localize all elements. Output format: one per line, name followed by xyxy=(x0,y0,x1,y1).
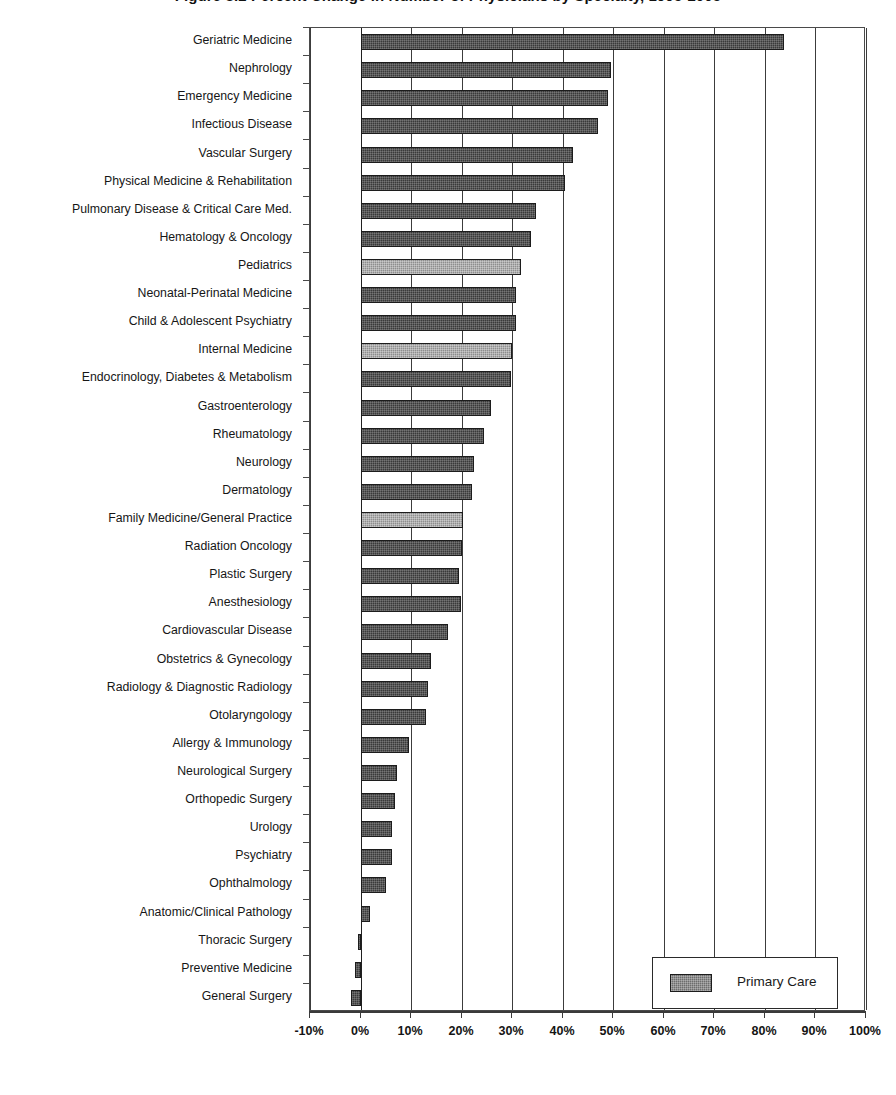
bar xyxy=(361,877,386,893)
bar xyxy=(361,118,599,134)
category-label: Otolaryngology xyxy=(0,709,292,722)
bar xyxy=(361,793,395,809)
category-label: Radiation Oncology xyxy=(0,540,292,553)
y-axis-tick xyxy=(303,786,310,787)
bar xyxy=(361,400,491,416)
y-axis-tick xyxy=(303,252,310,253)
category-label: Orthopedic Surgery xyxy=(0,793,292,806)
bar xyxy=(361,709,427,725)
category-label: Anatomic/Clinical Pathology xyxy=(0,906,292,919)
category-label: Rheumatology xyxy=(0,428,292,441)
category-label: Anesthesiology xyxy=(0,596,292,609)
bar xyxy=(361,484,472,500)
gridline xyxy=(866,28,867,1010)
bar xyxy=(361,231,532,247)
y-axis-tick xyxy=(303,392,310,393)
y-axis-tick xyxy=(303,814,310,815)
bar xyxy=(361,203,537,219)
bar xyxy=(361,315,517,331)
category-label: Pulmonary Disease & Critical Care Med. xyxy=(0,203,292,216)
category-label: Allergy & Immunology xyxy=(0,737,292,750)
y-axis-tick xyxy=(303,758,310,759)
category-label: Preventive Medicine xyxy=(0,962,292,975)
bar xyxy=(361,512,464,528)
category-label: Infectious Disease xyxy=(0,118,292,131)
y-axis-tick xyxy=(303,955,310,956)
x-axis-tick xyxy=(663,1011,664,1018)
y-axis-tick xyxy=(303,196,310,197)
category-label: Ophthalmology xyxy=(0,877,292,890)
y-axis-tick xyxy=(303,27,310,28)
plot-area xyxy=(309,27,865,1011)
bar xyxy=(361,34,785,50)
bar xyxy=(361,653,432,669)
bar xyxy=(361,343,513,359)
y-axis-tick xyxy=(303,505,310,506)
bar xyxy=(361,681,428,697)
bar xyxy=(361,456,475,472)
legend-label-primary-care: Primary Care xyxy=(737,974,817,989)
x-axis-tick xyxy=(865,1011,866,1018)
y-axis-tick xyxy=(303,674,310,675)
category-label: Internal Medicine xyxy=(0,343,292,356)
y-axis-tick xyxy=(303,421,310,422)
bar xyxy=(361,568,460,584)
category-label: Endocrinology, Diabetes & Metabolism xyxy=(0,371,292,384)
bar xyxy=(361,849,393,865)
y-axis-tick xyxy=(303,364,310,365)
bar xyxy=(361,62,611,78)
bar xyxy=(361,175,566,191)
category-label: Pediatrics xyxy=(0,259,292,272)
category-label: Neonatal-Perinatal Medicine xyxy=(0,287,292,300)
category-label: Nephrology xyxy=(0,62,292,75)
y-axis-tick xyxy=(303,842,310,843)
y-axis-tick xyxy=(303,927,310,928)
bar xyxy=(361,287,517,303)
category-label: Gastroenterology xyxy=(0,400,292,413)
gridline xyxy=(664,28,665,1010)
category-label: Hematology & Oncology xyxy=(0,231,292,244)
y-axis-tick xyxy=(303,280,310,281)
y-axis-tick xyxy=(303,730,310,731)
y-axis-tick xyxy=(303,449,310,450)
bar xyxy=(361,624,448,640)
x-axis-tick-label: 100% xyxy=(830,1024,896,1038)
y-axis-tick xyxy=(303,111,310,112)
chart-title: Figure 3.2 Percent Change in Number of P… xyxy=(0,0,896,5)
bar xyxy=(361,765,398,781)
bar xyxy=(355,962,360,978)
category-label: Cardiovascular Disease xyxy=(0,624,292,637)
x-axis-tick xyxy=(562,1011,563,1018)
x-axis-tick xyxy=(360,1011,361,1018)
category-label: Psychiatry xyxy=(0,849,292,862)
bar xyxy=(351,990,360,1006)
category-label: Radiology & Diagnostic Radiology xyxy=(0,681,292,694)
y-axis-tick xyxy=(303,617,310,618)
y-axis-tick xyxy=(303,55,310,56)
category-label: Dermatology xyxy=(0,484,292,497)
x-axis-tick xyxy=(410,1011,411,1018)
category-label: Child & Adolescent Psychiatry xyxy=(0,315,292,328)
y-axis-tick xyxy=(303,983,310,984)
category-label: Family Medicine/General Practice xyxy=(0,512,292,525)
y-axis-tick xyxy=(303,168,310,169)
bar xyxy=(361,737,409,753)
y-axis-tick xyxy=(303,139,310,140)
bar xyxy=(361,371,512,387)
chart-container: Figure 3.2 Percent Change in Number of P… xyxy=(0,0,896,1095)
y-axis-tick xyxy=(303,308,310,309)
y-axis-tick xyxy=(303,477,310,478)
category-label: Neurological Surgery xyxy=(0,765,292,778)
bar xyxy=(361,428,485,444)
category-label: Obstetrics & Gynecology xyxy=(0,653,292,666)
y-axis-tick xyxy=(303,533,310,534)
y-axis-tick xyxy=(303,83,310,84)
category-label: Urology xyxy=(0,821,292,834)
bar xyxy=(361,90,609,106)
y-axis-tick xyxy=(303,870,310,871)
bar xyxy=(361,147,573,163)
category-label: Thoracic Surgery xyxy=(0,934,292,947)
x-axis-line xyxy=(309,1011,865,1013)
bar xyxy=(361,259,522,275)
x-axis-tick xyxy=(814,1011,815,1018)
